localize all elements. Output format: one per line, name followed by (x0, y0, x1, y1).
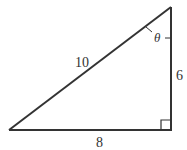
triangle-diagram: θ 10 6 8 (0, 0, 187, 150)
horizontal-leg-label: 8 (96, 135, 103, 150)
vertical-leg-label: 6 (176, 68, 183, 83)
angle-label: θ (154, 30, 161, 45)
triangle (9, 7, 172, 130)
right-angle-marker (161, 120, 171, 130)
hypotenuse-label: 10 (75, 55, 89, 70)
hypotenuse-side (9, 7, 171, 130)
angle-tick-left (146, 27, 152, 32)
